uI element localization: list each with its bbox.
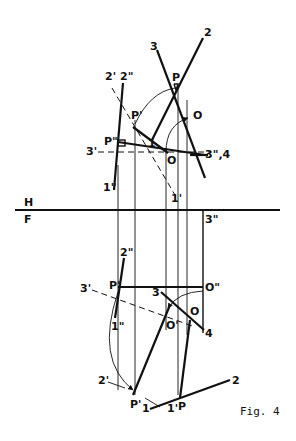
label-F: F (24, 213, 32, 226)
label-H: H (24, 196, 33, 209)
label-2-dprime-front: 2" (120, 246, 133, 259)
label-2-dprime: 2" (120, 70, 133, 83)
label-1-bottom: 1 (142, 402, 150, 415)
figure-caption: Fig. 4 (240, 405, 280, 418)
label-2-prime: 2' (105, 70, 116, 83)
label-P-bottom: P (178, 400, 186, 413)
label-2: 2 (204, 26, 212, 39)
label-3: 3 (150, 40, 158, 53)
label-O-prime-front: O' (166, 319, 179, 332)
label-P-prime-bottom: P' (130, 398, 141, 411)
label-1-dprime-front: 1" (111, 320, 124, 333)
label-3-front: 3 (152, 286, 160, 299)
label-P-dprime: P" (104, 135, 118, 148)
label-O-lower: O (167, 154, 176, 167)
label-O: O (193, 109, 202, 122)
label-1: 1 (148, 137, 156, 150)
label-1-dprime: 1" (103, 181, 116, 194)
label-1-prime: 1' (171, 192, 182, 205)
label-3-prime-front: 3' (80, 282, 91, 295)
label-3-prime: 3' (86, 145, 97, 158)
label-2-bottom: 2 (232, 374, 240, 387)
label-P-prime: P' (131, 109, 142, 122)
projection-lines (118, 85, 203, 395)
label-O-front: O (190, 305, 199, 318)
label-3dprime-4: 3",4 (205, 148, 231, 161)
descriptive-geometry-figure: 3 2 P O 2' 2" P' P" 3' 1 O 3",4 1" 1' H … (0, 0, 296, 441)
label-P-prime-front: P' (109, 279, 120, 292)
label-O-dprime: O" (205, 281, 220, 294)
label-P: P (172, 71, 180, 84)
label-4-front: 4 (205, 327, 213, 340)
label-3-dprime: 3" (205, 213, 218, 226)
label-2-prime-front: 2' (98, 374, 109, 387)
label-1-prime-bottom: 1' (167, 402, 178, 415)
